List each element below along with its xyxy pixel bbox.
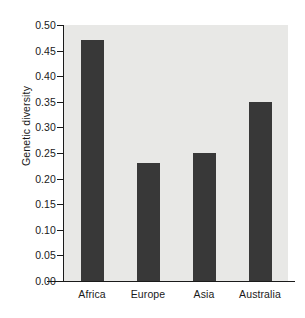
y-axis-tick-mark bbox=[57, 76, 64, 77]
y-axis-tick-label: 0.45 bbox=[10, 45, 56, 57]
y-axis-tick-label: 0.40 bbox=[10, 70, 56, 82]
y-axis-tick-mark bbox=[57, 179, 64, 180]
y-axis-tick-label: 0.05 bbox=[10, 249, 56, 261]
y-axis-tick-label: 0.50 bbox=[10, 19, 56, 31]
x-axis-tick-label: Africa bbox=[78, 288, 105, 300]
y-axis-tick-label: 0.30 bbox=[10, 121, 56, 133]
y-axis-tick-mark bbox=[57, 230, 64, 231]
x-axis-tick-label: Asia bbox=[194, 288, 215, 300]
bar-asia bbox=[193, 153, 216, 281]
y-axis-tick-labels: 0.000.050.100.150.200.250.300.350.400.45… bbox=[10, 0, 56, 318]
x-axis-tick-label: Australia bbox=[239, 288, 281, 300]
y-axis-title: Genetic diversity bbox=[20, 46, 32, 206]
y-axis-tick-label: 0.00 bbox=[10, 275, 56, 287]
y-axis-tick-mark bbox=[57, 255, 64, 256]
bar-africa bbox=[81, 40, 104, 281]
y-axis-tick-mark bbox=[57, 51, 64, 52]
y-axis-tick-label: 0.10 bbox=[10, 224, 56, 236]
y-axis-tick-label: 0.20 bbox=[10, 173, 56, 185]
bar-europe bbox=[137, 163, 160, 281]
bar-chart-figure: 0.000.050.100.150.200.250.300.350.400.45… bbox=[0, 0, 305, 318]
y-axis-tick-mark bbox=[57, 153, 64, 154]
x-axis-tick-label: Europe bbox=[131, 288, 165, 300]
x-axis-line bbox=[47, 281, 295, 282]
y-axis-tick-mark bbox=[57, 127, 64, 128]
y-axis-tick-mark bbox=[57, 102, 64, 103]
bar-australia bbox=[249, 102, 272, 281]
y-axis-tick-mark bbox=[57, 204, 64, 205]
y-axis-tick-mark bbox=[57, 281, 64, 282]
y-axis-tick-label: 0.15 bbox=[10, 198, 56, 210]
y-axis-tick-label: 0.25 bbox=[10, 147, 56, 159]
y-axis-tick-label: 0.35 bbox=[10, 96, 56, 108]
y-axis-tick-mark bbox=[57, 25, 64, 26]
